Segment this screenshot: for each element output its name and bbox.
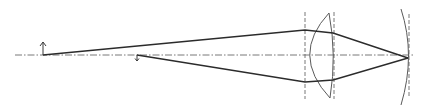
object-arrow-icon [40, 42, 46, 55]
upper-ray [43, 30, 408, 58]
lens-back-surface [329, 13, 333, 98]
lower-ray [137, 55, 408, 82]
optical-diagram [0, 0, 434, 109]
lens-front-surface [310, 13, 330, 98]
